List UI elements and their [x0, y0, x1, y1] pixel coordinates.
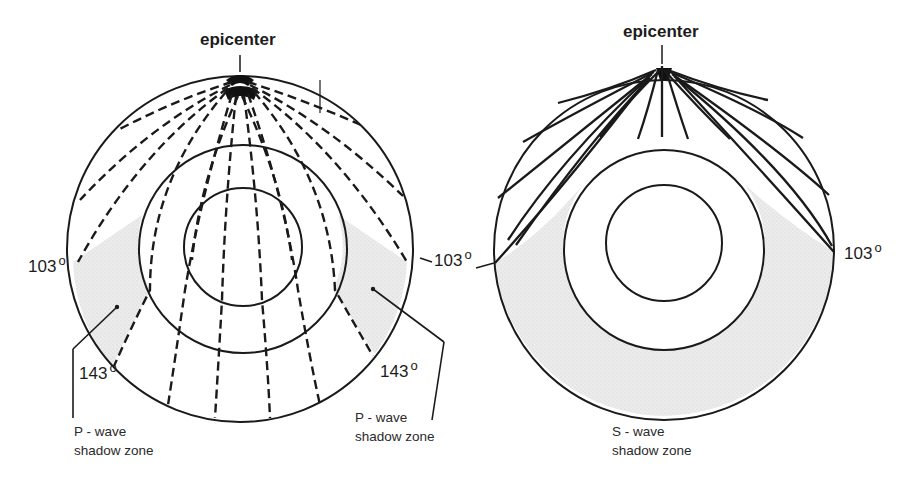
degree-symbol: o [109, 360, 116, 375]
p-angle-143-left: 143o [79, 364, 117, 384]
angle-value: 143 [79, 364, 107, 383]
p-wave-shadow-zone-left [73, 215, 150, 366]
s-angle-103-right: 103o [844, 244, 882, 264]
s-shadow-zone-label: S - wave shadow zone [612, 422, 692, 460]
label-line: shadow zone [612, 441, 692, 460]
angle-value: 103 [28, 257, 56, 276]
s-outer-core-fill [564, 150, 764, 350]
label-line: shadow zone [74, 441, 154, 460]
degree-symbol: o [58, 253, 65, 268]
s-wave-panel [476, 45, 834, 420]
degree-symbol: o [464, 247, 471, 262]
label-line: P - wave [355, 408, 435, 427]
p-shadow-zone-label-right: P - wave shadow zone [355, 408, 435, 446]
angle-value: 143 [380, 362, 408, 381]
label-line: P - wave [74, 422, 154, 441]
angle-value: 103 [844, 244, 872, 263]
p-wave-shadow-zone-right [333, 215, 407, 354]
degree-symbol: o [874, 240, 881, 255]
p-angle-103-right: 103o [434, 251, 472, 271]
label-line: shadow zone [355, 427, 435, 446]
angle-value: 103 [434, 251, 462, 270]
s-epicenter-label: epicenter [623, 22, 699, 42]
p-angle-103-left: 103o [28, 257, 66, 277]
p-outer-core-boundary [139, 145, 347, 353]
p-epicenter-label: epicenter [200, 30, 276, 50]
seismic-wave-diagram [0, 0, 916, 481]
label-line: S - wave [612, 422, 692, 441]
p-angle-143-right: 143o [380, 362, 418, 382]
p-shadow-zone-label-left: P - wave shadow zone [74, 422, 154, 460]
degree-symbol: o [410, 358, 417, 373]
